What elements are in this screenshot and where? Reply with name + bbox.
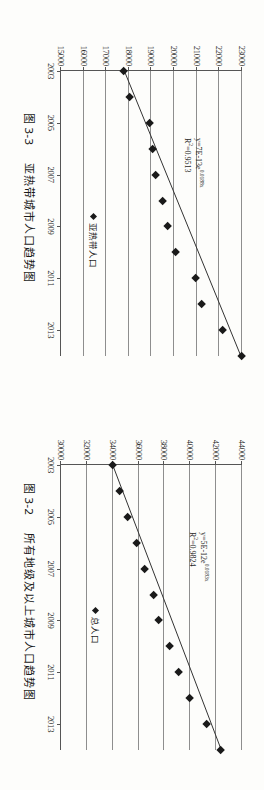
x-axis-tick-label: 2005 (46, 115, 61, 131)
trendline-equation-3-3: y=7E-13e0.0188xR2=0.9513 (182, 138, 205, 188)
data-point-marker (238, 352, 246, 360)
x-axis-tick-label: 2005 (46, 509, 61, 525)
gridline (241, 71, 242, 356)
legend-3-3: 亚热带人口 (88, 214, 100, 268)
x-axis-tick-label: 2003 (46, 457, 61, 473)
y-axis-tick-label: 38000 (159, 440, 169, 465)
y-axis-tick-label: 36000 (134, 440, 144, 465)
data-point-marker (150, 591, 158, 599)
y-axis-tick-label: 18000 (124, 46, 134, 71)
plot-area-3-2: 4400042000400003800036000340003200030000… (60, 464, 242, 750)
legend-label-3-2: 总人口 (90, 617, 102, 644)
data-point-marker (133, 539, 141, 547)
data-point-marker (199, 300, 207, 308)
data-point-marker (165, 223, 173, 231)
x-axis-tick-label: 2011 (46, 664, 61, 680)
y-axis-tick-label: 21000 (192, 46, 202, 71)
equation-exponent: 0.0183x (204, 564, 210, 582)
data-point-marker (203, 720, 211, 728)
scanned-page: 2300022000210002000019000180001700016000… (0, 0, 264, 790)
y-axis-tick-label: 20000 (169, 46, 179, 71)
data-point-marker (141, 565, 149, 573)
gridline (151, 71, 152, 356)
y-axis-tick-label: 16000 (79, 46, 89, 71)
figure-caption-3-2: 图 3-2 所有地级及以上城市人口趋势图 (22, 412, 38, 772)
data-point-marker (175, 668, 183, 676)
legend-3-2: 总人口 (90, 608, 102, 644)
data-point-marker (117, 487, 125, 495)
diamond-marker-icon (92, 607, 99, 614)
y-axis-tick-label: 22000 (214, 46, 224, 71)
equation-text: y=5E-12e0.0183x (199, 532, 208, 582)
gridline (173, 71, 174, 356)
figure-number-3-3: 图 3-3 (22, 113, 35, 145)
data-point-marker (217, 746, 225, 754)
x-axis-tick-label: 2009 (46, 218, 61, 234)
gridline (163, 465, 164, 750)
gridline (241, 465, 242, 750)
plot-area-3-3: 2300022000210002000019000180001700016000… (60, 70, 242, 356)
data-point-marker (166, 642, 174, 650)
y-axis-tick-label: 42000 (211, 440, 221, 465)
data-point-marker (124, 513, 132, 521)
x-axis-tick-label: 2011 (46, 270, 61, 286)
y-axis-tick-label: 19000 (147, 46, 157, 71)
gridline (112, 465, 113, 750)
figure-title-3-3: 亚热带城市人口趋势图 (22, 163, 35, 283)
y-axis-tick-label: 44000 (237, 440, 247, 465)
data-point-marker (152, 171, 160, 179)
y-axis-tick-label: 17000 (101, 46, 111, 71)
x-axis-tick-label: 2007 (46, 561, 61, 577)
x-axis-tick-label: 2007 (46, 167, 61, 183)
figure-title-3-2: 所有地级及以上城市人口趋势图 (22, 533, 35, 701)
gridline (86, 465, 87, 750)
gridline (138, 465, 139, 750)
gridline (196, 71, 197, 356)
figure-number-3-2: 图 3-2 (22, 483, 35, 515)
figure-3-2-body: 4400042000400003800036000340003200030000… (0, 412, 250, 772)
x-axis-tick-label: 2013 (46, 716, 61, 732)
x-axis-tick-label: 2013 (46, 322, 61, 338)
figure-3-3: 2300022000210002000019000180001700016000… (0, 18, 250, 378)
trendline-equation-3-2: y=5E-12e0.0183xR2=0.9824 (187, 532, 210, 582)
x-axis-tick-label: 2009 (46, 612, 61, 628)
gridline (128, 71, 129, 356)
data-point-marker (186, 694, 194, 702)
r-squared-text: R2=0.9824 (188, 532, 197, 567)
figure-3-2: 4400042000400003800036000340003200030000… (0, 412, 250, 772)
equation-text: y=7E-13e0.0188x (194, 138, 203, 188)
figure-caption-3-3: 图 3-3 亚热带城市人口趋势图 (22, 18, 38, 378)
y-axis-tick-label: 23000 (237, 46, 247, 71)
gridline (105, 71, 106, 356)
data-point-marker (159, 197, 167, 205)
data-point-marker (219, 326, 227, 334)
data-point-marker (192, 274, 200, 282)
y-axis-tick-label: 40000 (185, 440, 195, 465)
diamond-marker-icon (90, 213, 97, 220)
y-axis-tick-label: 32000 (82, 440, 92, 465)
equation-exponent: 0.0188x (199, 170, 205, 188)
data-point-marker (155, 617, 163, 625)
data-point-marker (146, 119, 154, 127)
legend-label-3-3: 亚热带人口 (88, 223, 100, 268)
x-axis-tick-label: 2003 (46, 63, 61, 79)
figure-3-3-body: 2300022000210002000019000180001700016000… (0, 18, 250, 378)
r-squared-text: R2=0.9513 (183, 138, 192, 173)
gridline (215, 465, 216, 750)
gridline (83, 71, 84, 356)
gridline (189, 465, 190, 750)
gridline (218, 71, 219, 356)
